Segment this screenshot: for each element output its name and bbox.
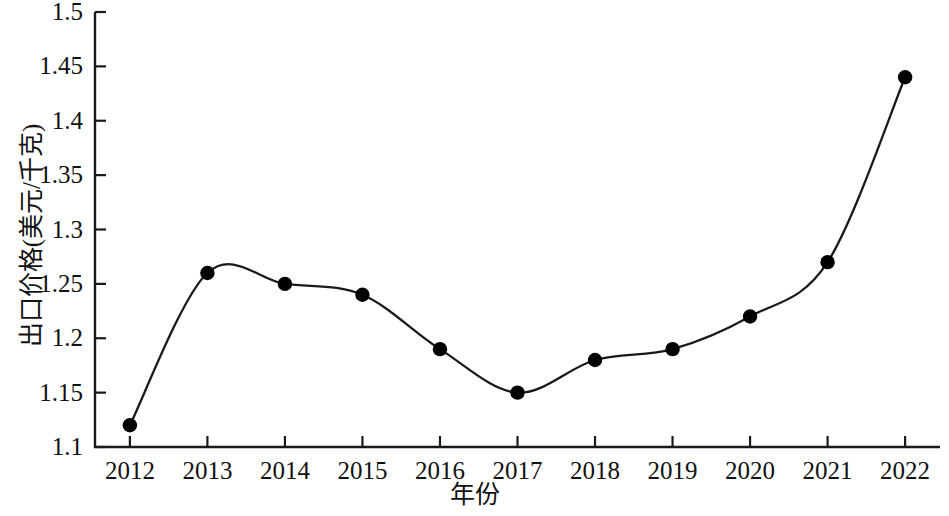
x-axis-tick-label: 2018 — [550, 458, 640, 483]
data-point-marker — [123, 418, 137, 432]
data-point-marker — [355, 288, 369, 302]
y-axis-tick-label: 1.5 — [0, 0, 83, 24]
data-point-marker — [278, 277, 292, 291]
x-axis-tick-label: 2014 — [240, 458, 330, 483]
data-point-marker — [588, 353, 602, 367]
x-axis-tick-label: 2022 — [860, 458, 949, 483]
data-point-markers — [123, 70, 913, 432]
data-line-series-1 — [130, 77, 905, 425]
x-axis-tick-label: 2017 — [473, 458, 563, 483]
x-axis-title: 年份 — [0, 481, 949, 508]
axes — [95, 12, 940, 447]
x-axis-tick-label: 2012 — [85, 458, 175, 483]
data-point-marker — [510, 385, 524, 399]
axis-spines — [95, 12, 940, 447]
x-axis-tick-label: 2020 — [705, 458, 795, 483]
x-axis-tick-label: 2019 — [628, 458, 718, 483]
x-axis-ticks — [130, 436, 905, 447]
x-axis-tick-label: 2013 — [162, 458, 252, 483]
data-point-marker — [433, 342, 447, 356]
y-axis-title: 出口价格(美元/千克) — [18, 71, 45, 401]
data-point-marker — [820, 255, 834, 269]
x-axis-tick-label: 2015 — [317, 458, 407, 483]
data-point-marker — [898, 70, 912, 84]
data-point-marker — [200, 266, 214, 280]
x-axis-tick-label: 2021 — [783, 458, 873, 483]
data-point-marker — [665, 342, 679, 356]
x-axis-tick-label: 2016 — [395, 458, 485, 483]
y-axis-ticks — [95, 12, 106, 447]
plot-area — [0, 0, 949, 516]
data-point-marker — [743, 309, 757, 323]
y-axis-tick-label: 1.1 — [0, 434, 83, 459]
line-chart: 1.11.151.21.251.31.351.41.451.5 20122013… — [0, 0, 949, 516]
